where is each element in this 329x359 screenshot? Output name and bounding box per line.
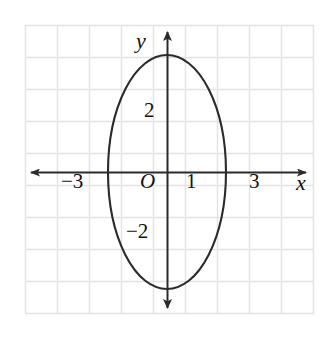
y-tick-label-minus2: −2 (126, 219, 148, 243)
y-tick-label-2: 2 (144, 98, 155, 122)
x-tick-label-minus3: −3 (61, 169, 83, 193)
ellipse-graph-figure: −3 O 1 3 2 −2 x y (0, 0, 329, 359)
x-tick-label-3: 3 (249, 169, 260, 193)
origin-label: O (140, 169, 155, 193)
y-axis-label: y (134, 28, 146, 53)
coordinate-plane-svg: −3 O 1 3 2 −2 x y (0, 0, 329, 359)
x-axis-label: x (295, 170, 306, 195)
x-tick-label-1: 1 (186, 169, 197, 193)
